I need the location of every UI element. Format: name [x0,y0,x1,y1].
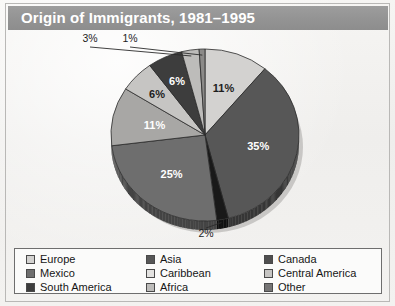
legend-swatch-asia [146,255,155,264]
chart-legend: Europe Mexico South America Asia Caribbe… [14,248,382,294]
legend-item-caribbean[interactable]: Caribbean [146,267,211,280]
legend-label-africa: Africa [160,281,188,294]
legend-swatch-mexico [26,269,35,278]
legend-column-1: Europe Mexico South America [26,253,112,295]
legend-swatch-europe [26,255,35,264]
legend-item-other[interactable]: Other [264,281,356,294]
slice-value-label-caribbean: 11% [144,119,166,131]
legend-swatch-caribbean [146,269,155,278]
legend-swatch-central-america [264,269,273,278]
legend-column-3: Canada Central America Other [264,253,356,295]
slice-value-label-africa: 3% [82,32,97,44]
legend-item-africa[interactable]: Africa [146,281,211,294]
legend-label-central-america: Central America [278,267,356,280]
legend-swatch-canada [264,255,273,264]
legend-label-mexico: Mexico [40,267,75,280]
slice-value-label-asia: 35% [247,140,269,152]
slice-value-label-canada: 2% [198,227,213,239]
legend-item-central-america[interactable]: Central America [264,267,356,280]
page-title: Origin of Immigrants, 1981–1995 [21,9,255,26]
legend-swatch-other [264,283,273,292]
slice-value-label-mexico: 25% [161,168,183,180]
legend-label-canada: Canada [278,253,317,266]
slice-value-label-other: 1% [122,32,137,44]
legend-item-mexico[interactable]: Mexico [26,267,112,280]
legend-label-asia: Asia [160,253,181,266]
legend-column-2: Asia Caribbean Africa [146,253,211,295]
legend-item-europe[interactable]: Europe [26,253,112,266]
legend-label-europe: Europe [40,253,75,266]
pie-chart-area: 11%35%25%11%6%6%2%3%1% [8,32,388,242]
legend-item-asia[interactable]: Asia [146,253,211,266]
chart-figure: Origin of Immigrants, 1981–1995 11%35%25… [0,0,395,306]
legend-label-south-america: South America [40,281,112,294]
pie-slice-side-asia [228,218,229,227]
legend-label-other: Other [278,281,306,294]
legend-item-south-america[interactable]: South America [26,281,112,294]
legend-swatch-africa [146,283,155,292]
legend-label-caribbean: Caribbean [160,267,211,280]
legend-swatch-south-america [26,283,35,292]
slice-value-label-central-america: 6% [149,88,165,100]
slice-value-label-south-america: 6% [169,75,185,87]
pie-chart-svg: 11%35%25%11%6%6%2%3%1% [8,32,388,242]
legend-item-canada[interactable]: Canada [264,253,356,266]
slice-value-label-europe: 11% [213,82,235,94]
